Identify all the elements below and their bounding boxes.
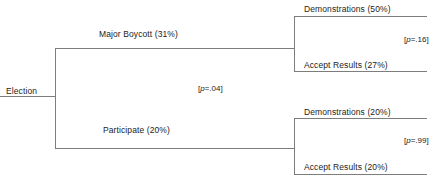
branch-upper-arm-line [55,48,295,49]
root-split-vertical-line [55,48,56,149]
p-value-text: =.99] [411,136,429,145]
leaf-accept-results-lower-line [294,174,427,175]
p-value-text: =.16] [411,35,429,44]
root-node-label: Election [6,86,37,96]
upper-split-p-value: [p=.16] [404,35,429,44]
leaf-demonstrations-upper-line [294,16,427,17]
leaf-label-accept-results-upper: Accept Results (27%) [304,60,388,70]
leaf-demonstrations-lower-line [294,118,427,119]
branch-lower-arm-line [55,148,295,149]
decision-tree-figure: Election Major Boycott (31%) Participate… [0,0,441,184]
leaf-label-demonstrations-upper: Demonstrations (50%) [304,4,391,14]
leaf-accept-results-upper-line [294,71,427,72]
leaf-label-demonstrations-lower: Demonstrations (20%) [304,107,391,117]
upper-split-vertical-line [294,16,295,72]
leaf-label-accept-results-lower: Accept Results (20%) [304,162,388,172]
root-stem-line [0,96,56,97]
branch-lower-label: Participate (20%) [103,125,170,135]
branch-upper-label: Major Boycott (31%) [99,29,178,39]
root-split-p-value: [p=.04] [198,84,223,93]
lower-split-vertical-line [294,118,295,175]
p-value-text: =.04] [205,84,223,93]
lower-split-p-value: [p=.99] [404,136,429,145]
